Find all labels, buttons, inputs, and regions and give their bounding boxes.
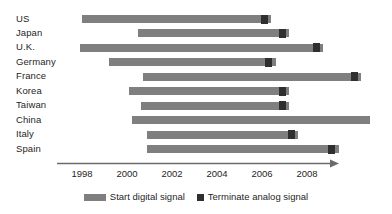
bar-us	[82, 15, 271, 23]
plot-area	[0, 0, 392, 160]
bar-taiwan	[141, 102, 290, 110]
x-tick-2006: 2006	[251, 169, 272, 179]
legend-bar-swatch-icon	[84, 194, 106, 201]
bar-france	[143, 73, 361, 81]
bar-germany	[109, 58, 276, 66]
terminate-marker-u-k	[313, 43, 320, 52]
legend-item-start-digital: Start digital signal	[84, 192, 185, 202]
x-tick-1998: 1998	[71, 169, 92, 179]
chart-legend: Start digital signal Terminate analog si…	[0, 192, 392, 202]
bar-italy	[147, 131, 298, 139]
x-tick-2002: 2002	[161, 169, 182, 179]
x-tick-2000: 2000	[116, 169, 137, 179]
legend-label-start-digital: Start digital signal	[110, 192, 185, 202]
bar-china	[132, 116, 371, 124]
x-tick-2004: 2004	[206, 169, 227, 179]
bar-spain	[147, 145, 338, 153]
terminate-marker-italy	[288, 130, 295, 139]
bar-japan	[138, 29, 289, 37]
bar-u-k	[80, 44, 323, 52]
legend-square-swatch-icon	[197, 194, 204, 201]
terminate-marker-spain	[328, 145, 335, 154]
terminate-marker-taiwan	[279, 101, 286, 110]
legend-label-terminate-analog: Terminate analog signal	[208, 192, 308, 202]
terminate-marker-france	[351, 72, 358, 81]
timeline-chart: USJapanU.K.GermanyFranceKoreaTaiwanChina…	[0, 0, 392, 214]
terminate-marker-korea	[279, 87, 286, 96]
terminate-marker-us	[261, 15, 268, 24]
bar-korea	[129, 87, 289, 95]
terminate-marker-germany	[265, 58, 272, 67]
legend-item-terminate-analog: Terminate analog signal	[197, 192, 308, 202]
axis-arrow-icon	[330, 160, 339, 168]
x-tick-2008: 2008	[296, 169, 317, 179]
terminate-marker-japan	[279, 29, 286, 38]
